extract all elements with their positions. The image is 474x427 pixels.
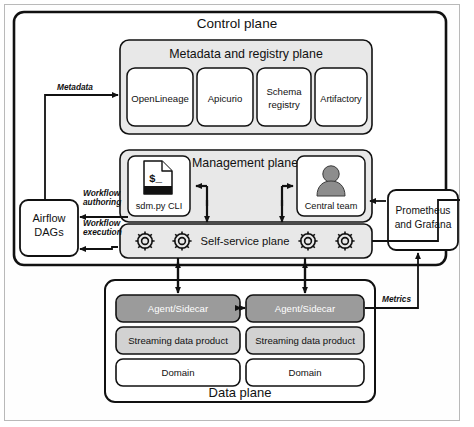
terminal-prompt-glyph: $_ xyxy=(149,173,163,185)
edge-label-workflow-execution-l2: execution xyxy=(83,227,122,237)
architecture-diagram: Control plane Metadata and registry plan… xyxy=(0,0,474,427)
management-plane-container: Management plane $_ sdm.py CLI xyxy=(120,150,372,222)
metadata-item-label-line1: Schema xyxy=(266,86,302,97)
data-plane-container: Agent/Sidecar Streaming data product Dom… xyxy=(105,280,375,402)
streaming-data-product-label: Streaming data product xyxy=(128,335,228,346)
central-team-card[interactable]: Central team xyxy=(297,156,365,216)
metadata-plane-title: Metadata and registry plane xyxy=(169,47,323,61)
edge-label-metadata: Metadata xyxy=(57,82,93,92)
data-plane-domain-2: Agent/Sidecar Streaming data product Dom… xyxy=(246,295,364,386)
airflow-label-line2: DAGs xyxy=(34,226,64,238)
sdm-cli-card[interactable]: $_ sdm.py CLI xyxy=(128,156,190,216)
metadata-item-label: OpenLineage xyxy=(131,93,189,104)
central-team-label: Central team xyxy=(305,201,358,211)
streaming-data-product-label: Streaming data product xyxy=(255,335,355,346)
diagram-canvas: Control plane Metadata and registry plan… xyxy=(0,0,474,427)
metadata-item-apicurio[interactable]: Apicurio xyxy=(197,68,253,126)
edge-label-metrics: Metrics xyxy=(382,294,411,304)
domain-label: Domain xyxy=(288,367,321,378)
domain-label: Domain xyxy=(161,367,194,378)
agent-sidecar-label: Agent/Sidecar xyxy=(148,303,209,314)
airflow-dags-box[interactable]: Airflow DAGs xyxy=(20,200,78,256)
control-plane-title: Control plane xyxy=(197,16,277,31)
edge-label-workflow-authoring-l2: authoring xyxy=(83,197,121,207)
metadata-item-label: Apicurio xyxy=(208,93,243,104)
metadata-item-artifactory[interactable]: Artifactory xyxy=(315,68,367,126)
self-service-plane-container: Self-service plane xyxy=(120,224,372,258)
self-service-plane-title: Self-service plane xyxy=(201,235,290,247)
observability-label-line2: and Grafana xyxy=(395,219,452,230)
metadata-item-schema-registry[interactable]: Schema registry xyxy=(257,68,311,126)
agent-sidecar-label: Agent/Sidecar xyxy=(275,303,336,314)
metadata-item-openlineage[interactable]: OpenLineage xyxy=(127,68,193,126)
metadata-item-label-line2: registry xyxy=(268,99,300,110)
airflow-label-line1: Airflow xyxy=(32,212,65,224)
data-plane-domain-1: Agent/Sidecar Streaming data product Dom… xyxy=(116,295,240,386)
metadata-item-label: Artifactory xyxy=(320,94,362,104)
data-plane-title: Data plane xyxy=(209,385,272,400)
sdm-cli-label: sdm.py CLI xyxy=(136,201,182,211)
management-plane-title: Management plane xyxy=(192,156,298,170)
observability-label-line1: Prometheus xyxy=(396,205,451,216)
metadata-registry-plane: Metadata and registry plane OpenLineage … xyxy=(120,40,372,134)
terminal-document-icon: $_ xyxy=(144,161,172,194)
